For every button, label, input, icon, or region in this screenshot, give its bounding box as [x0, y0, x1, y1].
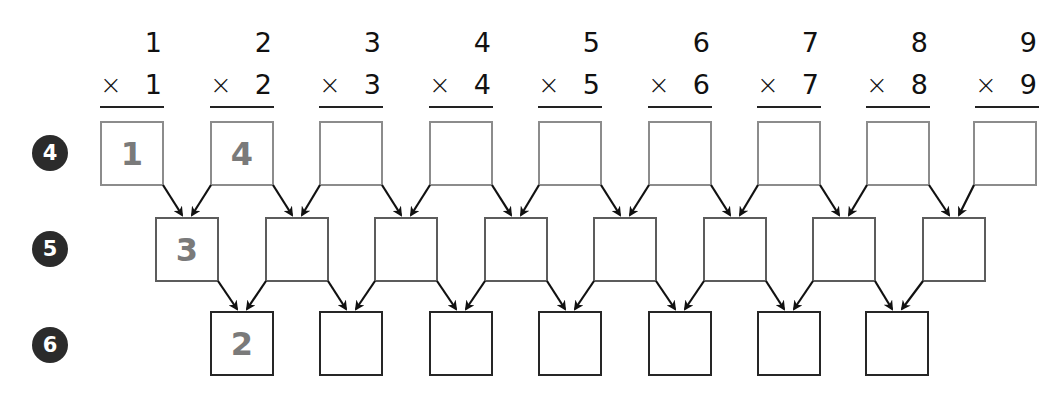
arrow-icon [163, 185, 182, 215]
arrow-icon [437, 281, 456, 309]
arrow-icon [929, 185, 949, 215]
arrow-icon [820, 185, 839, 215]
arrow-icon [466, 281, 485, 309]
arrow-icon [711, 185, 730, 215]
arrow-icon [902, 281, 923, 309]
arrow-icon [218, 281, 237, 309]
arrow-icon [356, 281, 375, 309]
arrow-icon [685, 281, 704, 309]
arrow-icon [547, 281, 565, 309]
arrow-icon [382, 185, 401, 215]
arrow-icon [247, 281, 266, 309]
arrow-icon [601, 185, 620, 215]
arrow-icon [656, 281, 675, 309]
arrow-icon [492, 185, 511, 215]
arrow-icon [849, 185, 867, 215]
arrow-icon [875, 281, 892, 309]
arrow-icon [794, 281, 813, 309]
arrow-icon [740, 185, 758, 215]
arrow-icon [192, 185, 211, 215]
arrow-icon [328, 281, 346, 309]
arrow-icon [302, 185, 320, 215]
arrow-icon [411, 185, 430, 215]
arrow-icon [766, 281, 784, 309]
arrow-icon [575, 281, 594, 309]
arrow-icon [630, 185, 649, 215]
arrow-icon [273, 185, 292, 215]
arrow-icon [959, 185, 974, 215]
difference-arrows [0, 0, 1059, 408]
arrow-icon [521, 185, 539, 215]
